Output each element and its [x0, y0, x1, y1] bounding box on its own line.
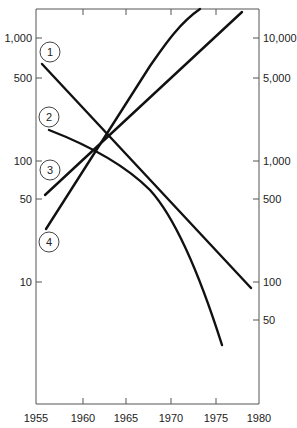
data-lines [42, 9, 251, 345]
x-label-1955: 1955 [24, 412, 48, 424]
marker-1-label: 1 [47, 46, 53, 58]
right-label-1000: 1,000 [263, 155, 291, 167]
marker-1: 1 [40, 42, 60, 62]
marker-4: 4 [39, 232, 59, 252]
x-label-1970: 1970 [159, 412, 183, 424]
x-label-1975: 1975 [204, 412, 228, 424]
right-label-100: 100 [263, 276, 281, 288]
chart-canvas: 1,000 500 100 50 10 10,000 5,000 1,000 5… [0, 0, 297, 428]
right-label-5000: 5,000 [263, 72, 291, 84]
marker-3: 3 [40, 160, 60, 180]
left-label-100: 100 [14, 155, 32, 167]
right-label-500: 500 [263, 193, 281, 205]
series-2-line [49, 130, 222, 345]
marker-2: 2 [39, 107, 59, 127]
marker-4-label: 4 [46, 236, 52, 248]
series-3-line [45, 12, 242, 195]
x-label-1980: 1980 [247, 412, 271, 424]
left-label-500: 500 [14, 72, 32, 84]
left-y-labels: 1,000 500 100 50 10 [4, 32, 32, 288]
series-1-line [42, 64, 251, 288]
left-label-10: 10 [20, 276, 32, 288]
right-y-labels: 10,000 5,000 1,000 500 100 50 [263, 32, 297, 326]
right-label-10000: 10,000 [263, 32, 297, 44]
x-labels: 1955 1960 1965 1970 1975 1980 [24, 412, 271, 424]
marker-2-label: 2 [46, 111, 52, 123]
x-label-1960: 1960 [71, 412, 95, 424]
right-y-ticks [253, 38, 259, 320]
series-4-line [46, 9, 200, 229]
right-label-50: 50 [263, 314, 275, 326]
left-label-1000: 1,000 [4, 32, 32, 44]
marker-3-label: 3 [47, 164, 53, 176]
x-label-1965: 1965 [114, 412, 138, 424]
left-label-50: 50 [20, 193, 32, 205]
